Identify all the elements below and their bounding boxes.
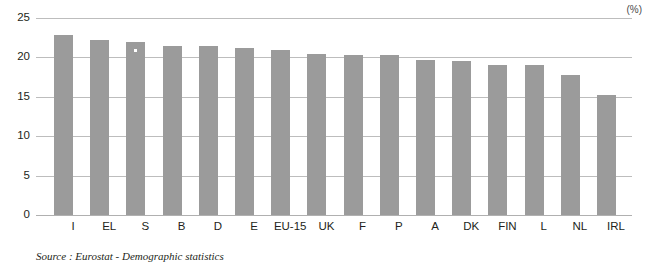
bar xyxy=(380,55,399,215)
bar xyxy=(199,46,218,215)
bars-group xyxy=(36,18,632,215)
bar xyxy=(163,46,182,215)
y-tick-label: 20 xyxy=(6,50,30,62)
bar xyxy=(561,75,580,215)
y-tick-label: 15 xyxy=(6,90,30,102)
plot-area xyxy=(36,18,632,215)
y-tick-label: 5 xyxy=(6,169,30,181)
bar xyxy=(235,48,254,215)
x-tick-label: IRL xyxy=(592,220,640,232)
gridline-0 xyxy=(36,215,632,216)
bar-chart-figure: (%) 0510152025 IELSBDEEU-15UKFPADKFINLNL… xyxy=(0,0,656,271)
bar-speck xyxy=(134,49,137,52)
bar xyxy=(488,65,507,216)
y-tick-label: 10 xyxy=(6,129,30,141)
bar xyxy=(597,95,616,215)
bar xyxy=(452,61,471,215)
bar xyxy=(416,60,435,215)
bar xyxy=(307,54,326,215)
bar xyxy=(271,50,290,215)
unit-label: (%) xyxy=(626,4,642,15)
bar xyxy=(344,55,363,215)
bar xyxy=(126,42,145,215)
source-note: Source : Eurostat - Demographic statisti… xyxy=(36,250,224,262)
bar xyxy=(525,65,544,215)
y-tick-label: 25 xyxy=(6,11,30,23)
x-axis: IELSBDEEU-15UKFPADKFINLNLIRL xyxy=(36,220,632,240)
bar xyxy=(90,40,109,215)
bar xyxy=(54,35,73,215)
y-tick-label: 0 xyxy=(6,208,30,220)
